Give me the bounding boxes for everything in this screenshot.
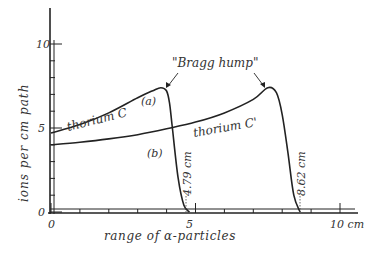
bragg-arrow-b xyxy=(254,73,263,85)
series-label-thorium-c: thorium C xyxy=(65,105,128,133)
curve-thorium-c-prime xyxy=(51,87,300,212)
series-label-thorium-c-prime: thorium C' xyxy=(192,115,258,140)
x-axis-label: range of α-particles xyxy=(104,229,236,243)
bragg-arrowhead-b xyxy=(260,82,265,88)
x-tick-10: 10 cm xyxy=(330,218,364,231)
series-tag-a: (a) xyxy=(141,95,156,108)
series-tag-b: (b) xyxy=(147,147,163,160)
bragg-curve-chart: 10 5 0 0 5 10 cm ions per cm path range … xyxy=(0,0,377,256)
y-tick-10: 10 xyxy=(36,38,50,51)
y-axis-label: ions per cm path xyxy=(17,84,31,202)
bragg-hump-annotation: "Bragg hump" xyxy=(172,56,258,70)
bragg-arrow-a xyxy=(168,73,178,86)
y-tick-5: 5 xyxy=(38,122,45,135)
y-tick-0: 0 xyxy=(38,206,45,219)
x-tick-0: 0 xyxy=(48,218,55,231)
range-label-b: 8.62 cm xyxy=(295,151,308,196)
range-label-a: 4.79 cm xyxy=(181,151,194,197)
y-ticks xyxy=(50,44,62,212)
